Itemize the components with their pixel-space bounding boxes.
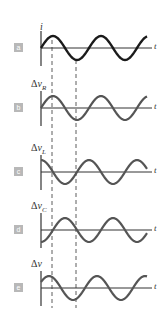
time-axis-label: t	[154, 281, 157, 291]
quantity-label-e: Δv	[31, 258, 42, 269]
phasor-waveform-diagram	[0, 0, 166, 328]
time-axis-label: t	[154, 101, 157, 111]
panel-c	[41, 155, 152, 190]
panel-badge-b: b	[14, 103, 23, 112]
reference-dashed-lines	[52, 40, 76, 308]
quantity-label-b: ΔvR	[31, 78, 46, 92]
panel-e	[41, 271, 152, 306]
waveform-panels	[41, 31, 152, 306]
quantity-label-d: ΔvC	[31, 200, 47, 214]
quantity-label-c: ΔvL	[31, 142, 46, 156]
panel-a	[41, 31, 152, 66]
panel-badge-c: c	[14, 167, 23, 176]
panel-badge-e: e	[14, 283, 23, 292]
time-axis-label: t	[154, 165, 157, 175]
quantity-label-a: i	[40, 21, 43, 32]
panel-badge-a: a	[14, 43, 23, 52]
panel-d	[41, 213, 152, 248]
panel-b	[41, 91, 152, 126]
time-axis-label: t	[154, 41, 157, 51]
panel-badge-d: d	[14, 225, 23, 234]
time-axis-label: t	[154, 223, 157, 233]
